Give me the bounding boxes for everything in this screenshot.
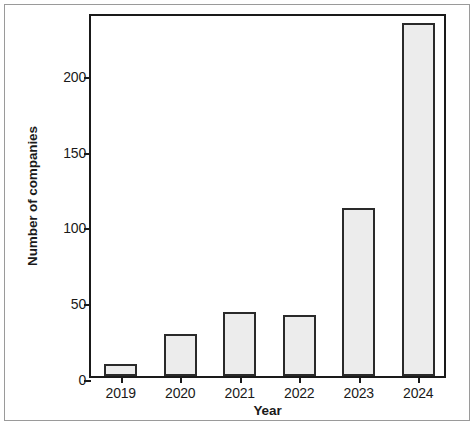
x-tick-label: 2019 <box>106 385 136 401</box>
y-tick-label: 100 <box>63 220 86 236</box>
bar-slot <box>329 16 389 376</box>
plot-area: 050100150200 201920202021202220232024 <box>89 14 446 378</box>
x-tick-mark <box>359 376 361 383</box>
bar[interactable] <box>283 315 316 376</box>
bar-slot <box>389 16 449 376</box>
y-axis-title: Number of companies <box>25 14 43 378</box>
x-tick-mark <box>299 376 301 383</box>
x-tick-mark <box>121 376 123 383</box>
bar-slot <box>270 16 330 376</box>
x-tick-mark <box>418 376 420 383</box>
x-tick-mark <box>180 376 182 383</box>
x-tick-label: 2021 <box>225 385 255 401</box>
x-tick-label: 2020 <box>165 385 195 401</box>
y-tick-label: 0 <box>78 372 86 388</box>
bar-slot <box>91 16 151 376</box>
bar[interactable] <box>104 364 137 376</box>
bar[interactable] <box>223 312 256 376</box>
x-tick-label: 2024 <box>403 385 433 401</box>
bar[interactable] <box>342 208 375 376</box>
x-tick-label: 2022 <box>284 385 314 401</box>
x-tick-mark <box>240 376 242 383</box>
y-tick-label: 50 <box>71 296 86 312</box>
y-tick-label: 150 <box>63 145 86 161</box>
chart-figure: 050100150200 201920202021202220232024 Nu… <box>4 4 470 421</box>
x-axis-title: Year <box>89 403 446 418</box>
bar-series <box>91 16 444 376</box>
bar[interactable] <box>402 23 435 376</box>
x-tick-label: 2023 <box>344 385 374 401</box>
y-tick-label: 200 <box>63 69 86 85</box>
bar[interactable] <box>164 334 197 376</box>
bar-slot <box>151 16 211 376</box>
bar-slot <box>210 16 270 376</box>
